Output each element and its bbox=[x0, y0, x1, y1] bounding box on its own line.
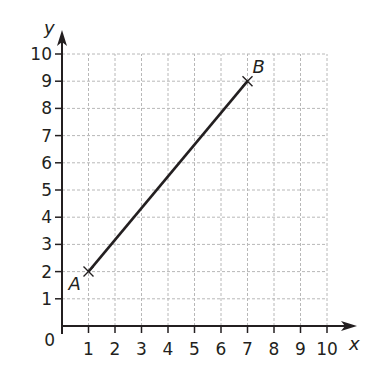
y-tick-label: 10 bbox=[30, 44, 52, 64]
x-tick-label: 4 bbox=[163, 339, 174, 359]
points: AB bbox=[68, 56, 265, 293]
x-axis-label: x bbox=[348, 333, 360, 354]
x-tick-label: 7 bbox=[242, 339, 253, 359]
y-tick-label: 5 bbox=[41, 180, 52, 200]
y-tick-label: 7 bbox=[41, 126, 52, 146]
y-tick-label: 1 bbox=[41, 289, 52, 309]
origin-label: 0 bbox=[44, 330, 55, 350]
point-label-a: A bbox=[68, 273, 81, 294]
grid-lines bbox=[62, 54, 327, 326]
x-tick-label: 3 bbox=[136, 339, 147, 359]
y-tick-label: 6 bbox=[41, 153, 52, 173]
x-tick-label: 1 bbox=[83, 339, 94, 359]
y-tick-label: 2 bbox=[41, 262, 52, 282]
coordinate-plane: 12345678910123456789100xy AB bbox=[0, 0, 383, 383]
x-tick-label: 2 bbox=[110, 339, 121, 359]
y-tick-label: 3 bbox=[41, 234, 52, 254]
y-tick-label: 4 bbox=[41, 207, 52, 227]
y-tick-label: 8 bbox=[41, 98, 52, 118]
x-tick-label: 5 bbox=[189, 339, 200, 359]
axes bbox=[55, 30, 357, 334]
y-axis-label: y bbox=[43, 17, 55, 38]
x-tick-label: 6 bbox=[216, 339, 227, 359]
x-tick-label: 10 bbox=[316, 339, 338, 359]
y-tick-label: 9 bbox=[41, 71, 52, 91]
x-tick-label: 9 bbox=[295, 339, 306, 359]
tick-labels: 12345678910123456789100xy bbox=[30, 17, 360, 359]
x-tick-label: 8 bbox=[269, 339, 280, 359]
point-label-b: B bbox=[253, 56, 265, 77]
